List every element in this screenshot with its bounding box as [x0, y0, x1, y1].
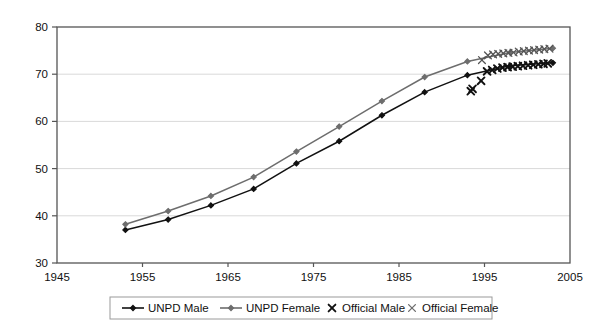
y-axis-tick-label: 60	[35, 115, 48, 127]
series-unpd-male	[123, 60, 556, 232]
x-axis-tick-label: 1965	[215, 271, 241, 283]
x-axis-tick-label: 1985	[386, 271, 412, 283]
data-point-marker	[166, 208, 171, 213]
y-axis-tick-label: 70	[35, 68, 48, 80]
x-axis-tick-label: 1975	[301, 271, 327, 283]
line-chart: 3040506070801945195519651975198519952005…	[0, 0, 601, 329]
legend-label: UNPD Male	[148, 302, 209, 314]
legend-label: Official Male	[342, 302, 405, 314]
data-point-marker	[465, 59, 470, 64]
y-axis-tick-label: 80	[35, 21, 48, 33]
legend-label: Official Female	[422, 302, 498, 314]
data-point-marker	[208, 193, 213, 198]
x-axis-tick-label: 2005	[557, 271, 583, 283]
chart-legend: UNPD MaleUNPD FemaleOfficial MaleOfficia…	[110, 297, 498, 319]
y-axis-tick-label: 40	[35, 210, 48, 222]
series-line	[125, 63, 553, 230]
y-axis-tick-label: 30	[35, 257, 48, 269]
x-axis-tick-label: 1995	[472, 271, 498, 283]
data-point-marker	[465, 73, 470, 78]
x-axis-tick-label: 1955	[130, 271, 156, 283]
legend-label: UNPD Female	[246, 302, 320, 314]
legend-item-official-female[interactable]: Official Female	[409, 302, 499, 314]
y-axis-tick-label: 50	[35, 163, 48, 175]
data-point-marker	[123, 222, 128, 227]
chart-container: 3040506070801945195519651975198519952005…	[0, 0, 601, 329]
series-official-male	[467, 60, 551, 95]
data-point-marker	[123, 227, 128, 232]
x-axis-tick-label: 1945	[44, 271, 70, 283]
data-point-marker	[208, 203, 213, 208]
data-point-marker	[166, 217, 171, 222]
